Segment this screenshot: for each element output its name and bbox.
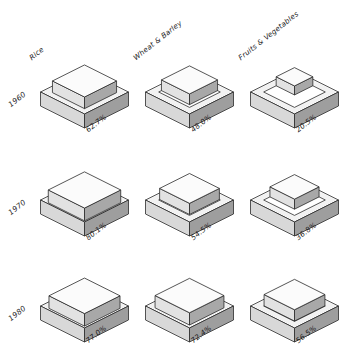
column-header-wheat-barley: Wheat & Barley [131, 18, 183, 62]
isometric-nested-box [238, 58, 339, 176]
isometric-nested-box [133, 58, 246, 176]
chart-cell [238, 272, 339, 356]
isometric-nested-box [133, 166, 246, 284]
chart-cell [28, 272, 141, 356]
chart-cell [133, 272, 246, 356]
row-label-1960: 1960 [6, 90, 27, 109]
chart-cell [238, 166, 339, 284]
isometric-nested-box [133, 272, 246, 356]
row-label-1970: 1970 [6, 198, 27, 217]
chart-cell [28, 58, 141, 176]
isometric-nested-box [238, 166, 339, 284]
chart-cell [238, 58, 339, 176]
chart-cell [28, 166, 141, 284]
isometric-nested-box [28, 58, 141, 176]
row-label-1980: 1980 [6, 304, 27, 323]
isometric-nested-box [238, 272, 339, 356]
column-header-fruits-vegetables: Fruits & Vegetables [236, 9, 300, 62]
chart-cell [133, 166, 246, 284]
isometric-nested-box [28, 166, 141, 284]
chart-cell [133, 58, 246, 176]
isometric-nested-box [28, 272, 141, 356]
nested-box-chart-grid: Rice Wheat & Barley Fruits & Vegetables … [0, 0, 339, 356]
